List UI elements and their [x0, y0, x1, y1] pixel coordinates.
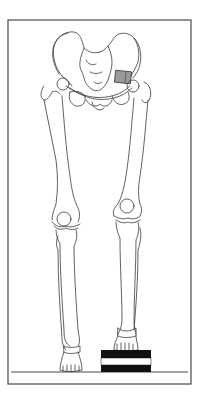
left-foot — [114, 336, 138, 351]
pelvis — [53, 32, 141, 110]
right-foot — [60, 352, 82, 372]
left-tibia-fibula — [116, 222, 141, 338]
right-femur — [41, 78, 80, 230]
figure-frame — [8, 20, 191, 384]
lift-block — [101, 350, 151, 372]
right-tibia-fibula — [56, 230, 80, 354]
left-femur — [113, 80, 151, 223]
skeletal-diagram — [0, 0, 200, 394]
